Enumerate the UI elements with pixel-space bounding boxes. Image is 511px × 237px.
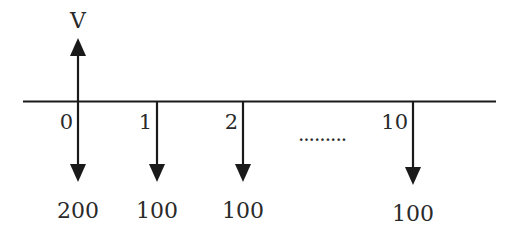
outflow-arrow-head-icon <box>149 164 165 182</box>
outflow-arrow-head-icon <box>70 164 86 182</box>
outflow-arrows: 02001100210010100 <box>57 101 434 226</box>
amount-label: 100 <box>392 201 434 226</box>
outflow-arrow: 0200 <box>57 101 99 223</box>
outflow-arrow: 1100 <box>136 101 178 223</box>
amount-label: 100 <box>222 198 264 223</box>
inflow-arrow-head-icon <box>70 38 86 56</box>
amount-label: 200 <box>57 198 99 223</box>
outflow-arrow-head-icon <box>235 164 251 182</box>
outflow-arrow: 2100 <box>222 101 264 223</box>
period-label: 0 <box>60 110 73 134</box>
inflow-label: V <box>69 8 87 33</box>
outflow-arrow-head-icon <box>405 167 421 185</box>
amount-label: 100 <box>136 198 178 223</box>
ellipsis: ......... <box>298 122 346 146</box>
inflow-arrow <box>70 38 86 101</box>
period-label: 1 <box>139 110 152 134</box>
period-label: 10 <box>381 110 408 134</box>
cash-flow-diagram: V 02001100210010100 ......... <box>0 0 511 237</box>
period-label: 2 <box>225 110 238 134</box>
outflow-arrow: 10100 <box>381 101 434 226</box>
